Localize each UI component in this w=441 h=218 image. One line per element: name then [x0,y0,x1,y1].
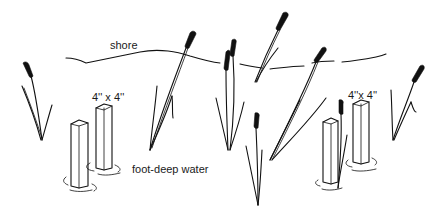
label-post-size-right: 4''x 4'' [348,90,377,101]
reed-center-pair [216,39,244,150]
post-front-right [323,118,338,184]
reed-and-posts-drawing [0,0,441,218]
label-water-depth: foot-deep water [132,164,208,175]
posts-left [64,104,121,192]
reed-foreground-short [246,113,262,205]
reed-left-center [150,31,196,150]
reed-between-posts [338,100,347,188]
post-front-left [71,120,88,188]
reed-right [391,65,424,140]
posts-right [316,100,377,190]
label-shore: shore [110,40,138,51]
reed-far-left [22,62,52,140]
reed-center-right [270,47,326,160]
reed-center-bent [255,12,288,82]
label-post-size-left: 4'' x 4'' [92,92,124,103]
